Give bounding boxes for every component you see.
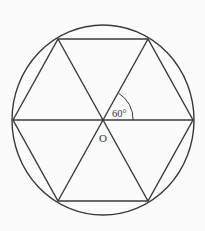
center-label-o: O: [99, 132, 107, 144]
angle-label: 60°: [112, 108, 127, 119]
hexagon-circle-diagram: 60° O: [0, 0, 205, 231]
